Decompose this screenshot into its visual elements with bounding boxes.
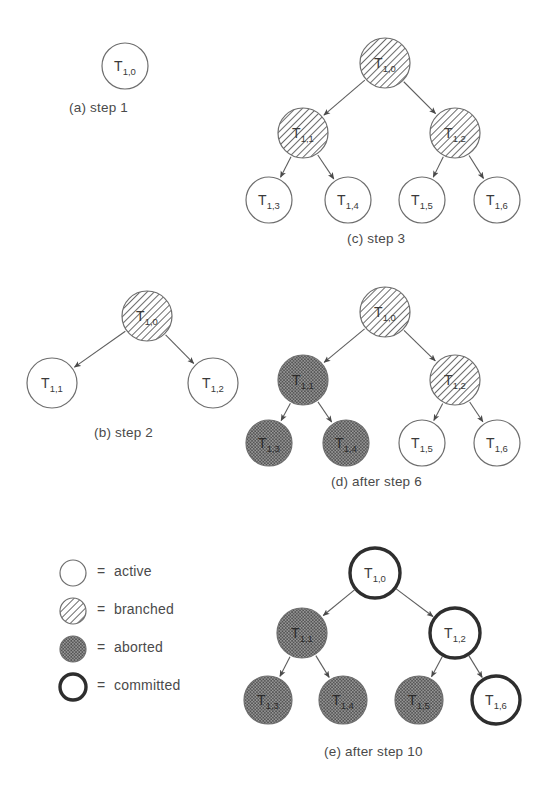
tree-edge-e-5 (469, 656, 482, 678)
node-label-subscript: 1,3 (267, 443, 280, 454)
panel-caption-a: (a) step 1 (69, 100, 128, 115)
tree-edge-c-3 (318, 155, 334, 179)
legend-label-branched: branched (114, 601, 174, 617)
tree-node-c-n3: T1,3 (246, 177, 292, 223)
tree-edge-c-4 (433, 157, 443, 177)
tree-node-e-n0: T1,0 (350, 548, 400, 598)
node-label-subscript: 1,5 (417, 700, 430, 711)
tree-edge-d-2 (281, 403, 290, 420)
tree-edge-c-2 (281, 157, 291, 178)
node-label-subscript: 1,1 (300, 633, 313, 644)
tree-edge-d-3 (318, 402, 332, 422)
tree-node-b-n1: T1,1 (27, 358, 77, 408)
node-label-subscript: 1,1 (301, 133, 314, 144)
tree-edge-e-0 (323, 590, 354, 616)
tree-node-d-n4: T1,4 (323, 420, 369, 466)
tree-node-e-n3: T1,3 (244, 676, 292, 724)
legend-equals-active: = (97, 563, 105, 579)
tree-node-e-n6: T1,6 (472, 676, 520, 724)
node-label-subscript: 1,3 (267, 200, 280, 211)
node-label-subscript: 1,2 (453, 133, 466, 144)
tree-node-e-n1: T1,1 (277, 608, 327, 658)
tree-node-e-n4: T1,4 (319, 676, 367, 724)
node-label-subscript: 1,2 (453, 380, 466, 391)
legend-swatch-branched (60, 598, 86, 624)
node-label-subscript: 1,2 (211, 383, 224, 394)
node-label-subscript: 1,4 (344, 443, 357, 454)
legend-swatch-committed (60, 674, 86, 700)
panel-caption-c: (c) step 3 (347, 231, 405, 246)
node-label-subscript: 1,0 (383, 312, 396, 323)
tree-node-d-n5: T1,5 (399, 420, 445, 466)
tree-node-d-n6: T1,6 (474, 420, 520, 466)
tree-node-c-n2: T1,2 (430, 108, 480, 158)
node-label-subscript: 1,5 (420, 200, 433, 211)
node-label-subscript: 1,4 (341, 700, 354, 711)
tree-node-e-n5: T1,5 (395, 676, 443, 724)
node-label-subscript: 1,3 (266, 700, 279, 711)
tree-edge-e-1 (396, 589, 433, 617)
tree-node-b-n2: T1,2 (188, 358, 238, 408)
legend-label-active: active (114, 563, 152, 579)
legend-swatch-active (60, 560, 86, 586)
transaction-tree-figure: T1,0T1,0T1,1T1,2T1,0T1,1T1,2T1,3T1,4T1,5… (0, 0, 553, 791)
tree-node-b-n0: T1,0 (122, 291, 172, 341)
panel-caption-d: (d) after step 6 (331, 474, 422, 489)
node-label-subscript: 1,5 (420, 443, 433, 454)
node-label-subscript: 1,1 (50, 383, 63, 394)
tree-node-c-n6: T1,6 (474, 177, 520, 223)
tree-edge-c-1 (404, 82, 436, 114)
node-label-subscript: 1,6 (494, 700, 507, 711)
node-label-subscript: 1,4 (346, 200, 359, 211)
tree-node-a-n0: T1,0 (102, 43, 148, 89)
legend-label-committed: committed (114, 677, 180, 693)
tree-node-e-n2: T1,2 (430, 608, 480, 658)
node-label-subscript: 1,6 (495, 443, 508, 454)
node-label-subscript: 1,0 (383, 63, 396, 74)
tree-edge-d-0 (324, 329, 364, 363)
node-label-subscript: 1,0 (373, 573, 386, 584)
tree-edge-d-4 (434, 403, 443, 420)
tree-edge-b-0 (74, 331, 125, 367)
node-label-subscript: 1,1 (301, 380, 314, 391)
legend-label-aborted: aborted (114, 639, 163, 655)
node-label-subscript: 1,6 (495, 200, 508, 211)
legend-swatch-layer (60, 560, 86, 700)
tree-node-d-n0: T1,0 (360, 287, 410, 337)
node-label-subscript: 1,0 (145, 316, 158, 327)
tree-edge-e-3 (316, 656, 329, 678)
tree-node-d-n1: T1,1 (278, 355, 328, 405)
tree-edge-c-5 (469, 155, 483, 178)
tree-node-c-n0: T1,0 (360, 38, 410, 88)
legend-swatch-aborted (60, 636, 86, 662)
panel-caption-e: (e) after step 10 (324, 744, 423, 759)
tree-edge-d-1 (404, 330, 435, 360)
node-label-subscript: 1,2 (453, 633, 466, 644)
figure-root: T1,0T1,0T1,1T1,2T1,0T1,1T1,2T1,3T1,4T1,5… (0, 0, 553, 791)
tree-node-c-n5: T1,5 (399, 177, 445, 223)
tree-node-c-n4: T1,4 (325, 177, 371, 223)
node-label-subscript: 1,0 (123, 66, 136, 77)
tree-edge-d-5 (470, 402, 483, 422)
legend-equals-branched: = (97, 601, 105, 617)
legend-equals-committed: = (97, 677, 105, 693)
tree-node-d-n2: T1,2 (430, 355, 480, 405)
nodes-layer: T1,0T1,0T1,1T1,2T1,0T1,1T1,2T1,3T1,4T1,5… (27, 38, 520, 724)
tree-node-c-n1: T1,1 (278, 108, 328, 158)
tree-edge-e-2 (280, 657, 290, 677)
panel-caption-b: (b) step 2 (94, 425, 153, 440)
legend-equals-aborted: = (97, 639, 105, 655)
tree-edge-c-0 (324, 80, 365, 115)
tree-edge-b-1 (166, 335, 194, 364)
tree-node-d-n3: T1,3 (246, 420, 292, 466)
tree-edge-e-4 (432, 656, 443, 676)
